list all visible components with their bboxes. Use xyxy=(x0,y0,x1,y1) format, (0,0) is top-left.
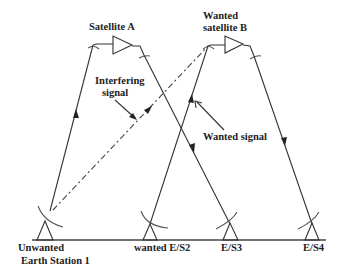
earth-station-2: wanted E/S2 xyxy=(134,211,190,253)
satellite-interference-diagram: Satellite A Wanted satellite B Interferi… xyxy=(0,0,343,272)
satellite-a-label: Satellite A xyxy=(89,21,135,32)
station-mount-icon xyxy=(143,224,157,240)
wanted-signal-annotation: Wanted signal xyxy=(195,101,267,142)
interfering-signal-annotation: Interfering signal xyxy=(95,75,147,120)
wanted-signal-pointer xyxy=(197,102,224,130)
dish-antenna-icon xyxy=(141,211,168,228)
earth-station-1-label: Unwanted Earth Station 1 xyxy=(18,242,90,266)
satellite-a: Satellite A xyxy=(88,21,150,58)
arrow-up-icon xyxy=(144,106,152,114)
satellite-a-output xyxy=(132,46,144,55)
earth-station-4-label: E/S4 xyxy=(303,242,325,253)
station-mount-icon xyxy=(37,221,53,240)
arrow-up-icon xyxy=(73,109,79,118)
satellite-a-amplifier-icon xyxy=(113,36,132,54)
earth-station-2-label: wanted E/S2 xyxy=(134,242,190,253)
earth-station-4: E/S4 xyxy=(298,212,325,253)
wanted-signal-label: Wanted signal xyxy=(203,131,267,142)
satellite-b-output xyxy=(243,45,254,56)
satellite-b-label: Wanted satellite B xyxy=(203,10,247,33)
station-mount-icon xyxy=(305,223,319,240)
earth-station-1: Unwanted Earth Station 1 xyxy=(18,206,90,266)
satellite-b-tx-antenna-icon xyxy=(250,56,261,59)
dish-antenna-icon xyxy=(216,212,237,229)
link-es2-to-sat-b-wanted xyxy=(150,46,208,224)
station-mount-icon xyxy=(223,223,238,240)
link-es1-to-sat-b-interfering xyxy=(53,46,208,210)
satellite-b: Wanted satellite B xyxy=(203,10,261,59)
satellite-a-rx-antenna-icon xyxy=(88,46,99,49)
arrow-down-icon xyxy=(281,137,287,146)
interfering-signal-label: Interfering signal xyxy=(95,75,147,98)
link-es1-to-sat-a xyxy=(50,45,93,211)
arrow-up-icon xyxy=(188,94,194,103)
satellite-a-input xyxy=(93,44,113,45)
earth-station-3-label: E/S3 xyxy=(221,242,242,253)
pointer-arrow-icon xyxy=(195,101,202,108)
satellite-b-input xyxy=(208,45,225,46)
satellite-b-amplifier-icon xyxy=(225,36,243,53)
satellite-b-rx-antenna-icon xyxy=(203,47,214,50)
earth-station-3: E/S3 xyxy=(216,212,242,253)
